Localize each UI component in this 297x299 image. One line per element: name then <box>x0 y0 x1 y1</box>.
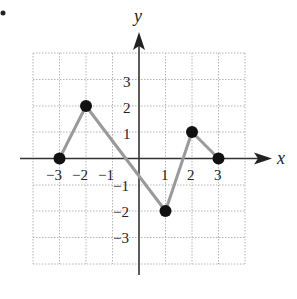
y-tick-label: 1 <box>123 126 131 142</box>
point-neg3-0 <box>54 153 66 165</box>
y-tick-label: −2 <box>113 204 129 220</box>
x-tick-label: 2 <box>187 167 195 183</box>
point-1-neg2 <box>160 205 172 217</box>
point-neg2-2 <box>80 100 92 112</box>
x-tick-label: −3 <box>46 167 62 183</box>
y-tick-label: −1 <box>113 178 129 194</box>
point-2-1 <box>186 126 198 138</box>
x-tick-label: −2 <box>72 167 88 183</box>
point-3-0 <box>213 153 225 165</box>
x-tick-label: 3 <box>214 167 222 183</box>
x-axis-label: x <box>276 148 285 168</box>
x-tick-label: −1 <box>98 167 114 183</box>
coordinate-plane-chart: x y −3 −2 −1 1 2 3 3 2 1 −1 −2 −3 <box>0 0 297 299</box>
list-bullet-icon <box>1 11 6 16</box>
y-axis-label: y <box>132 6 142 26</box>
x-tick-label: 1 <box>161 167 169 183</box>
y-tick-label: −3 <box>113 230 129 246</box>
y-tick-label: 2 <box>123 100 131 116</box>
y-tick-label: 3 <box>123 74 131 90</box>
